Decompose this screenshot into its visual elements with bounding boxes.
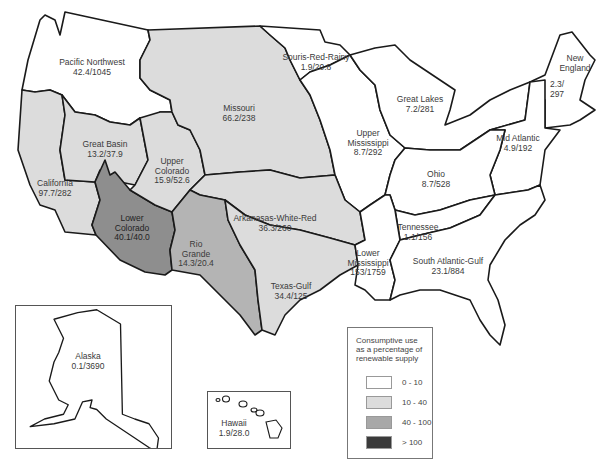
region-value: 1.1/156 [397,233,438,243]
label-lower-mississippi: Lower Mississippi 153/1759 [347,249,388,278]
region-value: 0.1/3690 [71,362,104,372]
label-texas-gulf: Texas-Gulf 34.4/125 [271,282,312,301]
label-ohio: Ohio 8.7/528 [422,170,450,189]
legend-item-0-10: 0 - 10 [366,376,422,389]
hawaii-inset: Hawaii 1.9/28.0 [207,391,291,449]
label-upper-mississippi: Upper Mississippi 8.7/292 [347,129,388,158]
legend-label: > 100 [402,438,422,447]
label-great-basin: Great Basin 13.2/37.9 [83,140,128,159]
label-mid-atlantic: Mid Atlantic 4.9/192 [496,134,539,153]
label-south-atlantic-gulf: South Atlantic-Gulf 23.1/884 [413,257,483,276]
legend-title-line: as a percentage of [356,345,432,354]
label-arkansas-white-red: Arkanasas-White-Red 36.3/260 [233,214,316,233]
region-value: 297 [550,90,564,100]
region-value: 13.2/37.9 [83,150,128,160]
region-value: 97.7/282 [37,189,73,199]
label-tennessee: Tennessee 1.1/156 [397,223,438,242]
region-value: 15.9/52.6 [154,176,189,186]
region-value: 153/1759 [347,268,388,278]
legend-label: 40 - 100 [402,418,431,427]
label-souris-red-rainy: Souris-Red-Rainy 1.9/20.8 [282,53,349,72]
region-name: England [559,64,590,74]
label-hawaii: Hawaii 1.9/28.0 [219,419,250,438]
region-value: 1.9/28.0 [219,429,250,439]
region-value: 36.3/260 [233,224,316,234]
label-new-england-value: 2.3/ 297 [550,80,564,99]
label-missouri: Missouri 66.2/238 [222,104,255,123]
region-value: 40.1/40.0 [114,233,149,243]
label-new-england: New England [559,54,590,73]
alaska-shape [16,306,171,448]
alaska-inset: Alaska 0.1/3690 [15,305,172,449]
region-value: 7.2/281 [397,105,443,115]
label-alaska: Alaska 0.1/3690 [71,352,104,371]
legend-label: 0 - 10 [402,378,422,387]
region-value: 8.7/528 [422,180,450,190]
region-value: 4.9/192 [496,144,539,154]
legend-swatch-light-gray [366,396,392,409]
map-legend: Consumptive use as a percentage of renew… [347,327,433,459]
legend-item-10-40: 10 - 40 [366,396,427,409]
label-california: California 97.7/282 [37,179,73,198]
region-value: 14.3/20.4 [178,259,213,269]
label-pacific-northwest: Pacific Northwest 42.4/1045 [59,58,125,77]
region-value: 34.4/125 [271,292,312,302]
legend-title: Consumptive use as a percentage of renew… [348,328,432,363]
region-value: 42.4/1045 [59,68,125,78]
region-value: 1.9/20.8 [282,63,349,73]
legend-title-line: Consumptive use [356,336,432,345]
legend-item-40-100: 40 - 100 [366,416,431,429]
region-value: 66.2/238 [222,114,255,124]
label-lower-colorado: Lower Colorado 40.1/40.0 [114,214,149,243]
legend-swatch-dark-gray [366,436,392,449]
region-value: 8.7/292 [347,148,388,158]
legend-swatch-white [366,376,392,389]
region-value: 23.1/884 [413,267,483,277]
label-rio-grande: Rio Grande 14.3/20.4 [178,240,213,269]
legend-title-line: renewable supply [356,354,432,363]
label-upper-colorado: Upper Colorado 15.9/52.6 [154,157,189,186]
legend-label: 10 - 40 [402,398,427,407]
legend-item-gt-100: > 100 [366,436,422,449]
legend-swatch-mid-gray [366,416,392,429]
label-great-lakes: Great Lakes 7.2/281 [397,95,443,114]
